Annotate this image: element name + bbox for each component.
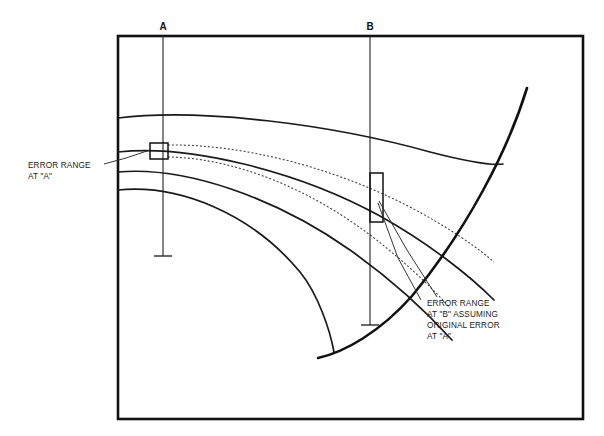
diagram-border (118, 36, 583, 419)
annotation-b-line-3: ORIGINAL ERROR (427, 321, 500, 330)
annotation-b-line-4: AT "A" (427, 332, 451, 341)
curve-2 (118, 151, 494, 300)
curve-1-top (118, 115, 503, 164)
annotation-error-range-at-a: ERROR RANGE AT "A" (28, 161, 91, 181)
diagram-root: A B ERROR RANGE AT "A" ERROR RANGE AT "B… (0, 0, 604, 436)
marker-line-a (154, 36, 172, 256)
annotation-error-range-at-b: ERROR RANGE AT "B" ASSUMING ORIGINAL ERR… (427, 299, 500, 341)
marker-label-b: B (366, 21, 373, 32)
leader-line-a (104, 150, 150, 164)
diagram-canvas: A B ERROR RANGE AT "A" ERROR RANGE AT "B… (0, 0, 604, 436)
annotation-a-line-2: AT "A" (28, 172, 52, 181)
annotation-b-line-1: ERROR RANGE (427, 299, 490, 308)
annotation-a-line-1: ERROR RANGE (28, 161, 91, 170)
leader-line-b-2 (379, 201, 437, 297)
marker-label-a: A (159, 21, 166, 32)
curve-4-bottom (118, 189, 334, 352)
annotation-b-line-2: AT "B" ASSUMING (427, 310, 498, 319)
